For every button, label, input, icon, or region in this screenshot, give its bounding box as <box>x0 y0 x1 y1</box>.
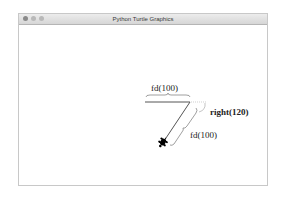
angle-arc-icon <box>199 103 205 112</box>
path-segment-2 <box>164 102 190 141</box>
label-fd2: fd(100) <box>190 130 217 140</box>
label-right: right(120) <box>210 107 249 117</box>
label-fd1: fd(100) <box>151 83 178 93</box>
turtle-icon <box>156 135 170 149</box>
brace-fd1-icon <box>146 93 190 97</box>
turtle-drawing: fd(100) right(120) fd(100) <box>0 0 283 198</box>
